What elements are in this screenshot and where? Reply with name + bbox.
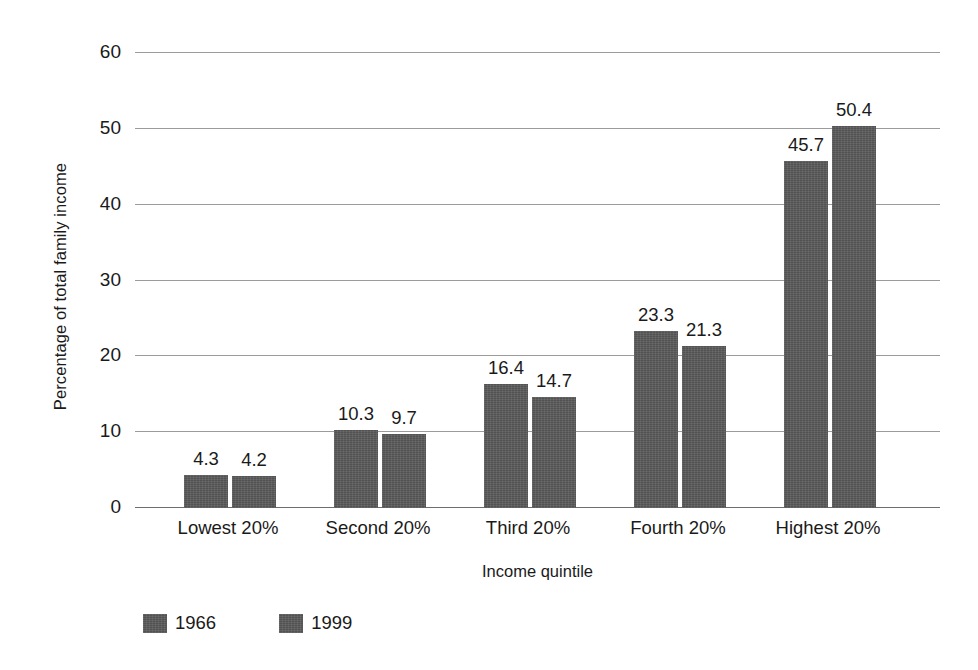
y-axis-title: Percentage of total family income [51, 77, 70, 497]
bar: 16.4 [484, 384, 528, 508]
bar-value-label: 23.3 [638, 304, 674, 326]
legend-item: 1999 [279, 612, 352, 634]
y-tick-label: 50 [100, 117, 121, 139]
y-tick-label: 40 [100, 193, 121, 215]
bar-group: 4.34.2Lowest 20% [179, 53, 281, 508]
bar-group: 10.39.7Second 20% [329, 53, 431, 508]
plot-area: 01020304050604.34.2Lowest 20%10.39.7Seco… [135, 53, 940, 508]
bar-value-label: 14.7 [536, 370, 572, 392]
bar: 4.3 [184, 475, 228, 508]
bar-group: 16.414.7Third 20% [479, 53, 581, 508]
legend-swatch-icon [143, 614, 167, 633]
bar-value-label: 21.3 [686, 319, 722, 341]
bar-value-label: 10.3 [338, 403, 374, 425]
bar-value-label: 4.3 [193, 448, 219, 470]
y-tick-label: 0 [110, 496, 121, 518]
bar-value-label: 16.4 [488, 357, 524, 379]
x-axis-title: Income quintile [135, 562, 940, 581]
bar-chart: Percentage of total family income 010203… [0, 0, 978, 670]
bar: 10.3 [334, 430, 378, 508]
x-tick-label: Third 20% [486, 517, 570, 539]
bar-value-label: 4.2 [241, 449, 267, 471]
x-tick-label: Second 20% [326, 517, 431, 539]
bar: 4.2 [232, 476, 276, 508]
bar: 23.3 [634, 331, 678, 508]
bar: 21.3 [682, 346, 726, 508]
legend-item: 1966 [143, 612, 216, 634]
bar: 9.7 [382, 434, 426, 508]
x-tick-label: Fourth 20% [630, 517, 726, 539]
legend-label: 1999 [311, 612, 352, 634]
bar-value-label: 45.7 [788, 134, 824, 156]
legend-label: 1966 [175, 612, 216, 634]
bar: 50.4 [832, 126, 876, 508]
bar-group: 45.750.4Highest 20% [779, 53, 881, 508]
chart-legend: 19661999 [143, 612, 352, 634]
y-tick-label: 20 [100, 344, 121, 366]
x-tick-label: Lowest 20% [178, 517, 279, 539]
legend-swatch-icon [279, 614, 303, 633]
bar: 45.7 [784, 161, 828, 508]
bar-group: 23.321.3Fourth 20% [629, 53, 731, 508]
bar: 14.7 [532, 397, 576, 508]
y-tick-label: 30 [100, 269, 121, 291]
bar-value-label: 50.4 [836, 99, 872, 121]
x-tick-label: Highest 20% [776, 517, 881, 539]
y-tick-label: 10 [100, 420, 121, 442]
bar-value-label: 9.7 [391, 407, 417, 429]
y-tick-label: 60 [100, 41, 121, 63]
